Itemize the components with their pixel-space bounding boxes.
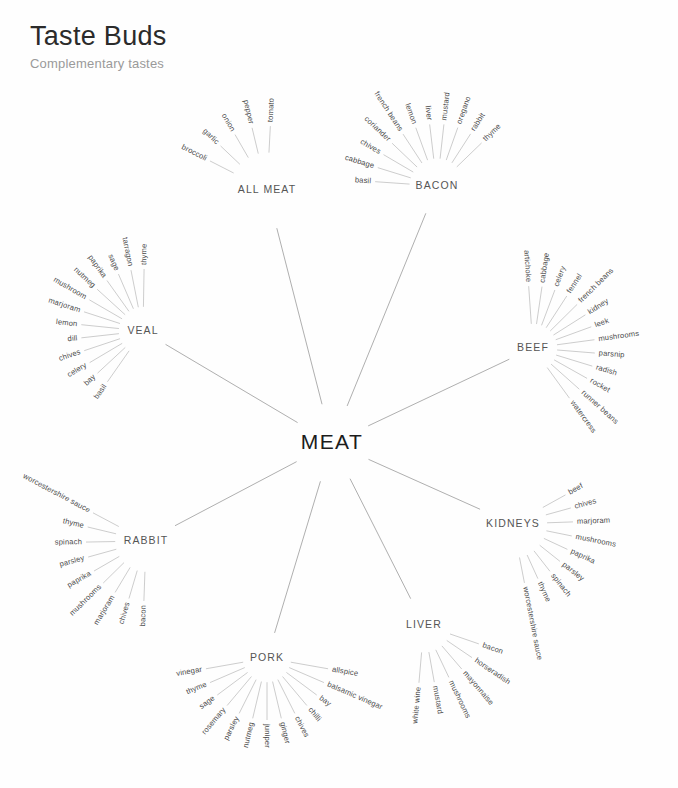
leaf-label: allspice: [331, 665, 359, 678]
hub-label-pork: PORK: [250, 651, 284, 663]
leaf-spoke: [206, 662, 243, 669]
leaf-label: tomato: [266, 98, 276, 123]
leaf-spoke: [239, 680, 256, 714]
leaf-spoke: [144, 572, 145, 601]
leaf-spoke: [430, 124, 434, 158]
leaf-label: parsley: [561, 560, 587, 583]
leaf-label: cabbage: [344, 153, 375, 171]
leaf-label: celery: [65, 360, 88, 379]
leaf-spoke: [540, 545, 560, 561]
leaf-spoke: [289, 668, 324, 683]
leaf-spoke: [291, 662, 328, 669]
spoke-meat-to-rabbit: [175, 462, 297, 526]
leaf-spoke: [221, 146, 240, 164]
hub-label-veal: VEAL: [127, 324, 158, 336]
leaf-label: bacon: [481, 640, 504, 655]
spoke-meat-to-liver: [350, 479, 411, 599]
leaf-spoke: [283, 677, 307, 706]
leaf-label: thyme: [62, 516, 85, 530]
leaf-spoke: [450, 634, 479, 644]
leaf-label: fennel: [565, 272, 584, 295]
leaf-spokes-group: [81, 124, 594, 720]
hub-label-liver: LIVER: [406, 618, 442, 630]
leaf-label: thyme: [536, 580, 553, 603]
leaf-spoke: [273, 682, 282, 719]
leaf-spoke: [527, 555, 538, 579]
leaf-spoke: [537, 287, 542, 324]
leaf-label: liver: [423, 105, 434, 121]
leaf-spoke: [84, 339, 120, 351]
leaf-label: chives: [359, 137, 383, 156]
leaf-label: vinegar: [176, 664, 203, 677]
leaf-spoke: [547, 368, 569, 399]
spoke-meat-to-veal: [166, 344, 298, 422]
leaf-label: spinach: [549, 571, 573, 598]
leaf-spoke: [94, 556, 119, 571]
leaf-spoke: [227, 677, 251, 706]
leaf-label: worcestershire sauce: [21, 471, 92, 515]
leaf-label: chives: [117, 601, 132, 625]
leaf-spoke: [143, 269, 144, 307]
leaf-spoke: [442, 646, 462, 669]
leaf-spoke: [278, 680, 295, 714]
leaf-label: thyme: [139, 243, 148, 265]
leaf-label: chives: [58, 347, 82, 363]
leaf-spoke: [447, 640, 472, 657]
leaf-spoke: [520, 557, 525, 582]
leaf-spoke: [107, 351, 129, 382]
leaf-label: worcestershire sauce: [521, 585, 544, 661]
leaf-spoke: [210, 161, 234, 173]
leaf-spoke: [553, 315, 585, 335]
leaf-label: mushrooms: [598, 329, 640, 343]
leaf-label: onion: [220, 112, 237, 133]
leaf-spoke: [118, 274, 133, 309]
leaf-label: sage: [106, 253, 121, 272]
leaf-spoke: [210, 668, 245, 683]
hub-label-kidneys: KIDNEYS: [486, 517, 540, 529]
leaf-label: cabbage: [538, 252, 551, 283]
leaf-spoke: [252, 128, 258, 154]
spoke-meat-to-kidneys: [369, 459, 481, 509]
leaf-spoke: [217, 672, 247, 695]
leaf-spoke: [446, 128, 458, 161]
leaf-label: paprika: [66, 568, 94, 589]
leaf-spoke: [546, 531, 571, 536]
leaf-label: juniper: [263, 723, 272, 748]
center-node-meat: MEAT: [301, 430, 363, 453]
leaf-spoke: [547, 522, 573, 523]
leaf-label: thyme: [481, 122, 503, 143]
leaf-label: parsley: [221, 715, 241, 742]
hub-label-beef: BEEF: [517, 341, 549, 353]
leaf-label: basil: [92, 382, 109, 401]
spoke-meat-to-all-meat: [277, 228, 322, 404]
leaf-spoke: [81, 325, 119, 329]
leaf-label: mushrooms: [447, 679, 473, 720]
leaf-label: broccoli: [180, 142, 209, 163]
leaf-spoke: [534, 551, 550, 571]
leaf-label: rocket: [589, 376, 613, 395]
hub-labels-group: ALL MEATBACONVEALBEEFKIDNEYSLIVERPORKRAB…: [124, 179, 549, 663]
leaf-label: balsamic vinegar: [326, 680, 384, 712]
leaf-label: tarragon: [121, 236, 136, 267]
leaf-spoke: [457, 143, 482, 167]
leaf-spoke: [131, 270, 138, 307]
leaf-spoke: [115, 567, 130, 592]
hub-label-bacon: BACON: [416, 179, 459, 191]
leaf-label: dill: [67, 333, 78, 343]
leaf-spoke: [103, 563, 124, 583]
leaf-spoke: [550, 304, 577, 331]
leaf-label: mushrooms: [575, 532, 617, 549]
leaf-spoke: [88, 549, 116, 557]
leaf-spoke: [129, 571, 137, 599]
leaf-spoke: [269, 126, 270, 153]
leaf-spoke: [403, 134, 422, 163]
spoke-meat-to-pork: [275, 481, 321, 633]
leaf-spoke: [81, 334, 119, 338]
leaf-label: lemon: [403, 102, 419, 125]
leaf-spoke: [88, 527, 116, 534]
spoke-meat-to-beef: [368, 359, 509, 426]
leaf-label: leek: [593, 316, 610, 329]
spoke-meat-to-bacon: [347, 213, 426, 406]
leaf-spoke: [544, 538, 567, 549]
hub-label-rabbit: RABBIT: [124, 534, 169, 546]
